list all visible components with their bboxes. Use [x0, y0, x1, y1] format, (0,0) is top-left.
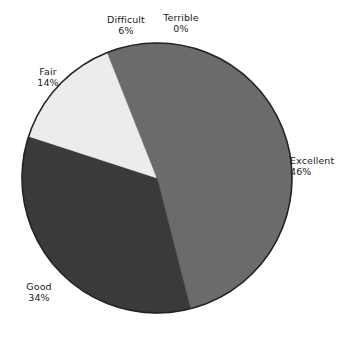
pie-label-terrible-category: Terrible [150, 12, 212, 23]
pie-label-excellent-category: Excellent [290, 155, 354, 166]
pie-label-good-percent: 34% [14, 292, 64, 303]
pie-label-fair: Fair 14% [24, 66, 72, 88]
pie-label-excellent: Excellent 46% [290, 155, 354, 177]
pie-label-good: Good 34% [14, 281, 64, 303]
pie-label-terrible-percent: 0% [150, 23, 212, 34]
pie-label-terrible: Terrible 0% [150, 12, 212, 34]
pie-label-good-category: Good [14, 281, 64, 292]
pie-label-fair-percent: 14% [24, 77, 72, 88]
pie-label-fair-category: Fair [24, 66, 72, 77]
pie-label-difficult-category: Difficult [96, 14, 156, 25]
pie-label-difficult-percent: 6% [96, 25, 156, 36]
pie-chart: Difficult 6% Terrible 0% Fair 14% Excell… [0, 0, 356, 344]
pie-label-excellent-percent: 46% [290, 166, 354, 177]
pie-label-difficult: Difficult 6% [96, 14, 156, 36]
